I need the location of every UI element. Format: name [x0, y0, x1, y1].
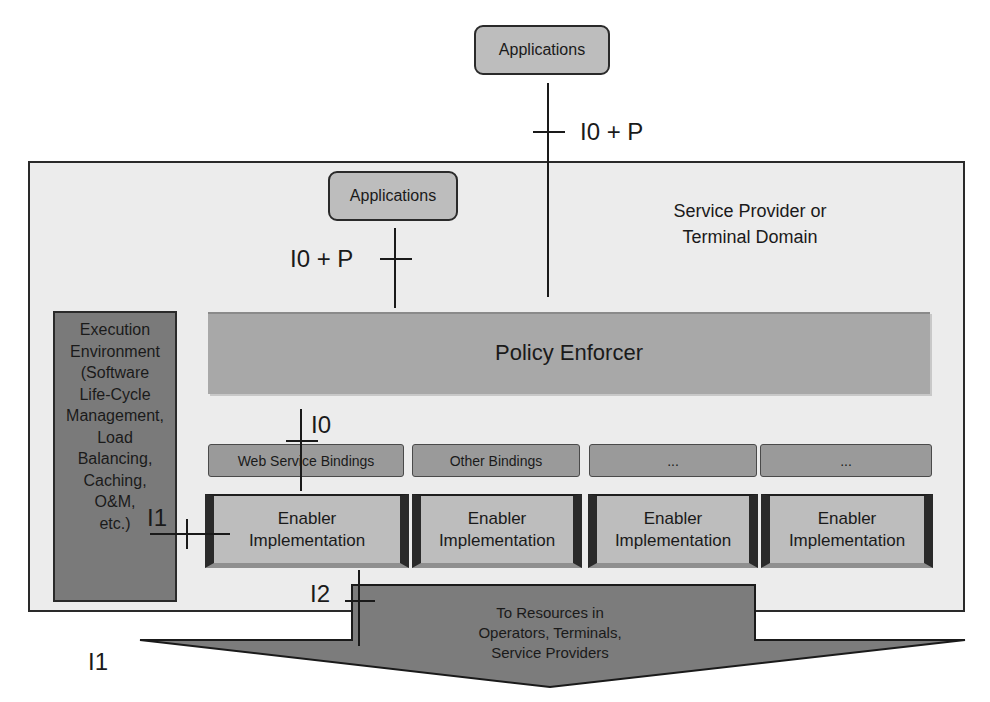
i0-interface-tick — [286, 440, 318, 442]
binding-web-service[interactable]: Web Service Bindings — [208, 444, 404, 477]
enabler-implementation-1[interactable]: EnablerImplementation — [205, 494, 409, 568]
resources-arrow-label: To Resources in Operators, Terminals, Se… — [380, 603, 720, 663]
exec-line: Life-Cycle — [55, 384, 175, 406]
inner-applications-box[interactable]: Applications — [328, 171, 458, 221]
enabler-implementation-4[interactable]: EnablerImplementation — [761, 494, 933, 568]
policy-enforcer-label: Policy Enforcer — [495, 340, 643, 366]
domain-label-line-2: Terminal Domain — [620, 224, 880, 250]
domain-label: Service Provider or Terminal Domain — [620, 198, 880, 250]
resources-line-3: Service Providers — [380, 643, 720, 663]
i2-interface-label: I2 — [310, 582, 330, 606]
binding-label: Web Service Bindings — [238, 453, 375, 469]
top-app-interface-tick — [533, 131, 565, 133]
domain-label-line-1: Service Provider or — [620, 198, 880, 224]
enabler-label-line2: Implementation — [249, 530, 365, 552]
inner-applications-label: Applications — [350, 187, 436, 205]
i1-exec-connector-line — [150, 533, 230, 535]
top-applications-label: Applications — [499, 41, 585, 59]
enabler-implementation-3[interactable]: EnablerImplementation — [588, 494, 758, 568]
i1-exec-interface-tick — [186, 519, 188, 549]
i2-connector-line — [358, 570, 360, 646]
resources-line-2: Operators, Terminals, — [380, 623, 720, 643]
exec-line: Management, — [55, 405, 175, 427]
i0-interface-label: I0 — [311, 413, 331, 437]
top-app-connector-line — [547, 83, 549, 297]
top-applications-box[interactable]: Applications — [474, 25, 610, 75]
policy-enforcer-box[interactable]: Policy Enforcer — [208, 312, 930, 394]
i1-exec-interface-label: I1 — [147, 506, 167, 530]
i1-bottom-interface-label: I1 — [88, 650, 108, 674]
binding-ellipsis-1[interactable]: ... — [589, 444, 757, 477]
binding-label: Other Bindings — [450, 453, 543, 469]
exec-line: (Software — [55, 362, 175, 384]
exec-line: Caching, — [55, 470, 175, 492]
exec-line: Execution — [55, 319, 175, 341]
inner-app-connector-line — [394, 228, 396, 308]
enabler-implementation-2[interactable]: EnablerImplementation — [412, 494, 582, 568]
exec-line: Load — [55, 427, 175, 449]
enabler-label-line1: Enabler — [249, 508, 365, 530]
binding-label: ... — [840, 453, 852, 469]
enabler-label-line1: Enabler — [615, 508, 731, 530]
enabler-label-line2: Implementation — [789, 530, 905, 552]
resources-line-1: To Resources in — [380, 603, 720, 623]
inner-app-interface-tick — [380, 258, 412, 260]
binding-other[interactable]: Other Bindings — [412, 444, 580, 477]
enabler-label-line1: Enabler — [439, 508, 555, 530]
binding-ellipsis-2[interactable]: ... — [760, 444, 932, 477]
i2-interface-tick — [345, 600, 375, 602]
top-app-interface-label: I0 + P — [580, 120, 643, 144]
enabler-label-line1: Enabler — [789, 508, 905, 530]
execution-environment-box[interactable]: Execution Environment (Software Life-Cyc… — [53, 311, 177, 602]
enabler-label-line2: Implementation — [439, 530, 555, 552]
exec-line: Balancing, — [55, 448, 175, 470]
binding-label: ... — [667, 453, 679, 469]
i0-connector-line — [300, 409, 302, 491]
enabler-label-line2: Implementation — [615, 530, 731, 552]
exec-line: Environment — [55, 341, 175, 363]
inner-app-interface-label: I0 + P — [290, 247, 353, 271]
